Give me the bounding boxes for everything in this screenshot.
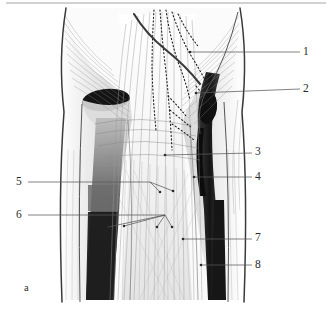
- label-2: 2: [303, 83, 309, 95]
- panel-label-a: a: [24, 282, 29, 293]
- label-3: 3: [255, 146, 261, 158]
- lower-black-band: [86, 212, 118, 300]
- leader-dot-6c: [156, 226, 159, 229]
- leader-dot-5b: [172, 190, 175, 193]
- leader-dot-3: [164, 154, 167, 157]
- leader-dot-4: [193, 176, 196, 179]
- leader-dot-5a: [159, 191, 162, 194]
- leader-dot-2: [195, 92, 198, 95]
- leader-dot-7: [182, 238, 185, 241]
- leader-dot-1: [189, 51, 192, 54]
- label-7: 7: [255, 232, 261, 244]
- anatomical-figure: [0, 0, 332, 316]
- leader-dot-6b: [123, 225, 126, 228]
- leader-dot-6a: [107, 226, 110, 229]
- label-6: 6: [16, 209, 22, 221]
- label-8: 8: [255, 259, 261, 271]
- label-1: 1: [303, 46, 309, 58]
- label-4: 4: [255, 171, 261, 183]
- label-5: 5: [16, 176, 22, 188]
- leader-dot-6d: [171, 226, 174, 229]
- leader-dot-8: [200, 264, 203, 267]
- right-lower-black-stripe: [212, 200, 226, 300]
